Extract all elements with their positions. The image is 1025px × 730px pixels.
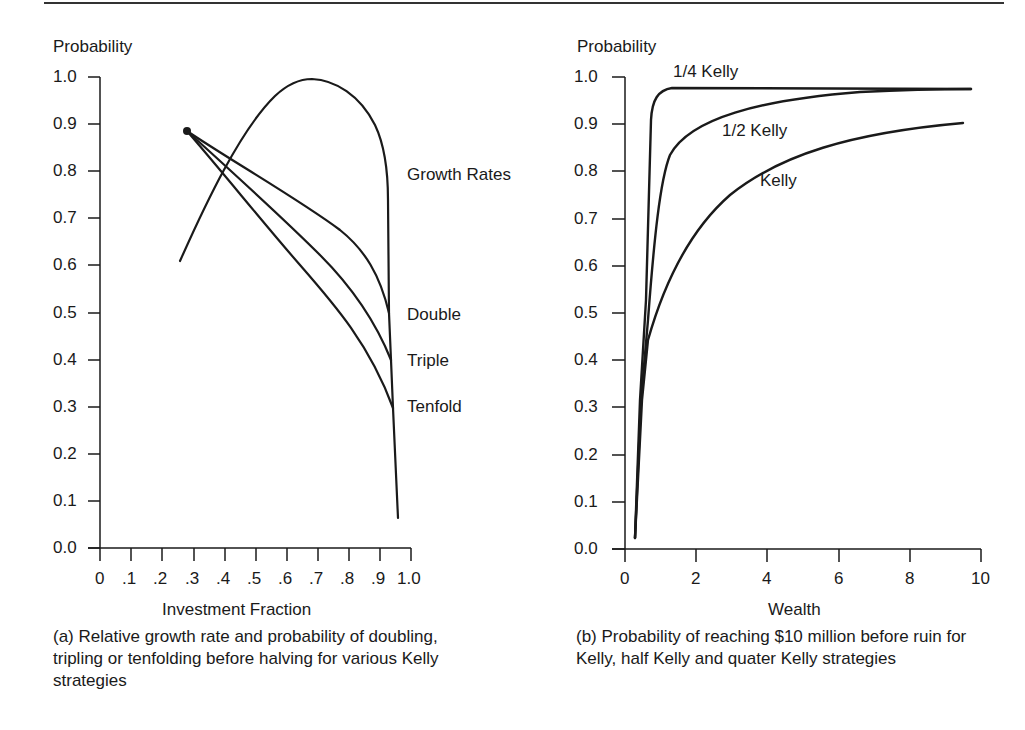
panel-a-y-tick: 0.6: [53, 255, 77, 275]
series-tenfold: [187, 131, 393, 408]
panel-a-x-tick: .8: [340, 569, 354, 589]
panel-a-y-tick: 0.3: [53, 397, 77, 417]
panel-b-y-tick: 0.1: [574, 492, 598, 512]
panel-b-y-tick: 0.2: [574, 445, 598, 465]
panel-b-x-tick: 8: [905, 569, 914, 589]
panel-a-caption: (a) Relative growth rate and probability…: [53, 626, 453, 692]
panel-a-y-tick: 0.0: [53, 538, 77, 558]
panel-a-y-tick: 0.4: [53, 350, 77, 370]
label-growth-rates: Growth Rates: [407, 165, 511, 185]
start-point-marker: [183, 127, 191, 135]
label-triple: Triple: [407, 351, 449, 371]
panel-a-y-tick: 0.9: [53, 114, 77, 134]
label-tenfold: Tenfold: [407, 397, 462, 417]
panel-a-x-tick: 1.0: [397, 569, 421, 589]
panel-b-y-tick: 0.4: [574, 350, 598, 370]
panel-b-x-tick: 2: [691, 569, 700, 589]
series-growth-rates: [180, 79, 398, 518]
panel-a-y-axis-label: Probability: [53, 37, 132, 57]
panel-b-y-tick: 0.7: [574, 209, 598, 229]
panel-a-x-tick: .5: [247, 569, 261, 589]
panel-a-y-tick: 0.8: [53, 161, 77, 181]
label-quarter-kelly: 1/4 Kelly: [673, 62, 738, 82]
panel-a-y-tick: 1.0: [53, 67, 77, 87]
panel-a-x-tick: .9: [371, 569, 385, 589]
panel-a-x-tick: .1: [122, 569, 136, 589]
label-kelly: Kelly: [760, 171, 797, 191]
chart-panel-a-plot: [0, 0, 1025, 730]
panel-b-y-tick: 0.6: [574, 256, 598, 276]
panel-a-x-tick: .4: [216, 569, 230, 589]
panel-a-x-tick: .7: [309, 569, 323, 589]
panel-b-x-tick: 4: [762, 569, 771, 589]
panel-b-x-tick: 10: [971, 569, 990, 589]
series-half-kelly: [635, 89, 971, 538]
panel-b-y-tick: 0.3: [574, 397, 598, 417]
panel-b-x-tick: 6: [834, 569, 843, 589]
panel-b-y-tick: 0.8: [574, 161, 598, 181]
panel-a-x-tick: .6: [278, 569, 292, 589]
panel-b-y-tick: 0.5: [574, 303, 598, 323]
panel-b-y-tick: 1.0: [574, 67, 598, 87]
panel-b-y-axis-label: Probability: [577, 37, 656, 57]
series-kelly: [635, 123, 963, 538]
panel-b-x-axis-label: Wealth: [768, 600, 821, 620]
panel-a-x-tick: 0: [95, 569, 104, 589]
label-double: Double: [407, 305, 461, 325]
panel-a-y-tick: 0.7: [53, 208, 77, 228]
panel-b-y-tick: 0.9: [574, 114, 598, 134]
panel-b-caption: (b) Probability of reaching $10 million …: [576, 626, 996, 670]
panel-a-y-tick: 0.1: [53, 491, 77, 511]
panel-b-y-tick: 0.0: [574, 539, 598, 559]
panel-a-x-tick: .3: [185, 569, 199, 589]
label-half-kelly: 1/2 Kelly: [722, 121, 787, 141]
series-triple: [187, 131, 391, 360]
panel-a-x-tick: .2: [153, 569, 167, 589]
panel-a-x-axis-label: Investment Fraction: [162, 600, 311, 620]
panel-b-x-tick: 0: [620, 569, 629, 589]
panel-a-y-tick: 0.5: [53, 303, 77, 323]
panel-a-y-tick: 0.2: [53, 444, 77, 464]
